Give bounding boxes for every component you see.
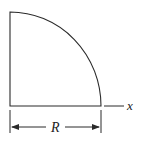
x-axis-label: x: [126, 98, 133, 113]
quarter-circle-diagram: x R: [0, 0, 143, 148]
arrowhead-right-icon: [92, 124, 100, 130]
quarter-circle-shape: [10, 12, 101, 106]
arrowhead-left-icon: [11, 124, 19, 130]
radius-label: R: [50, 120, 60, 135]
